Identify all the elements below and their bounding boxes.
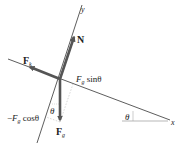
y-axis-label: y bbox=[80, 5, 85, 14]
parallel-component-label: Fg sinθ bbox=[75, 74, 102, 85]
gravity-angle-label: θ bbox=[50, 106, 55, 116]
kinetic-friction-arrow bbox=[30, 67, 60, 79]
normal-force-arrow bbox=[60, 37, 74, 79]
perpendicular-component-label: −Fg cosθ bbox=[7, 113, 39, 124]
sin-component-dotted bbox=[60, 84, 73, 122]
normal-force-label: N bbox=[77, 34, 85, 45]
cos-component-dotted bbox=[46, 117, 60, 122]
kinetic-friction-label: Fk bbox=[23, 55, 32, 67]
gravity-force-label: Fg bbox=[56, 126, 65, 138]
free-body-diagram: y x N Fk Fg Fg sinθ −Fg cosθ θ θ bbox=[0, 0, 180, 153]
x-axis-label: x bbox=[170, 118, 175, 127]
incline-angle-label: θ bbox=[125, 112, 130, 122]
